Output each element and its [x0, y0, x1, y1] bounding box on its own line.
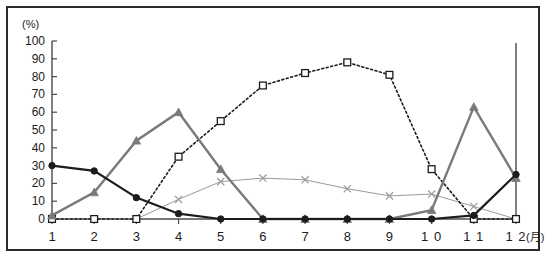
- y-tick-label: 40: [32, 141, 46, 155]
- x-tick-label: 3: [133, 229, 140, 244]
- x-tick-label: 7: [301, 229, 308, 244]
- y-tick-label: 80: [32, 70, 46, 84]
- black-circle-series-point: [302, 216, 308, 222]
- black-circle-series-point: [260, 216, 266, 222]
- x-tick-label: 1: [48, 229, 55, 244]
- y-tick-label: 30: [32, 159, 46, 173]
- black-circle-series-point: [175, 210, 181, 216]
- white-square-series-point: [344, 59, 351, 66]
- y-tick-label: 90: [32, 52, 46, 66]
- x-tick-label: 6: [259, 229, 266, 244]
- x-tick-label: 8: [344, 229, 351, 244]
- black-circle-series-point: [133, 194, 139, 200]
- white-square-series-point: [260, 82, 267, 89]
- gray-triangle-series-point: [174, 108, 182, 116]
- x-tick-label: 1 0: [421, 229, 442, 244]
- white-square-series-point: [428, 166, 435, 173]
- y-tick-label: 100: [25, 34, 45, 48]
- y-tick-label: 10: [32, 194, 46, 208]
- gray-triangle-series-line: [52, 107, 516, 219]
- y-tick-label: 70: [32, 87, 46, 101]
- white-square-series-point: [386, 71, 393, 78]
- x-tick-label: 2: [91, 229, 98, 244]
- white-square-series-point: [175, 153, 182, 160]
- black-circle-series-point: [513, 171, 519, 177]
- white-square-series-point: [91, 216, 98, 223]
- black-circle-series-point: [471, 212, 477, 218]
- black-circle-series-point: [428, 216, 434, 222]
- x-tick-label: 4: [175, 229, 182, 244]
- white-square-series-line: [52, 62, 516, 219]
- chart-canvas: (%) 10090807060504030201001234567891 01 …: [0, 0, 549, 259]
- y-tick-label: 60: [32, 105, 46, 119]
- black-circle-series-point: [49, 162, 55, 168]
- y-tick-label: 50: [32, 123, 46, 137]
- y-tick-label: 20: [32, 176, 46, 190]
- gray-cross-series-line: [52, 178, 516, 219]
- gray-triangle-series-point: [470, 103, 478, 111]
- x-tick-label: 9: [386, 229, 393, 244]
- white-square-series-point: [133, 216, 140, 223]
- line-chart-svg: 10090807060504030201001234567891 01 11 2…: [0, 0, 549, 259]
- black-circle-series-point: [91, 168, 97, 174]
- x-tick-label: 1 1: [463, 229, 484, 244]
- black-circle-series-point: [344, 216, 350, 222]
- x-tick-label: 5: [217, 229, 224, 244]
- black-circle-series-point: [218, 216, 224, 222]
- x-tick-label: 1 2: [505, 229, 526, 244]
- black-circle-series-point: [386, 216, 392, 222]
- y-tick-label: 0: [38, 212, 45, 226]
- x-axis-unit-label: (月): [526, 231, 544, 243]
- white-square-series-point: [302, 70, 309, 77]
- white-square-series-point: [513, 216, 520, 223]
- white-square-series-point: [217, 118, 224, 125]
